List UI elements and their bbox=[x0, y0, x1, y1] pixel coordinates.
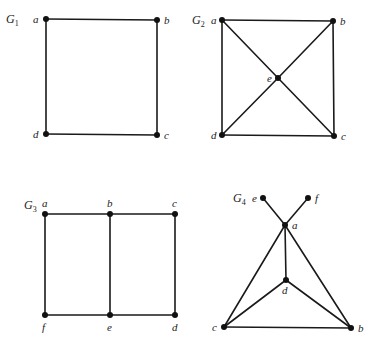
edge-b-e bbox=[278, 21, 333, 78]
vertex-c bbox=[154, 132, 160, 138]
vertex-label-d: d bbox=[172, 321, 178, 333]
vertex-c bbox=[331, 133, 337, 139]
vertex-label-c: c bbox=[172, 197, 177, 209]
edge-a-b bbox=[222, 20, 333, 21]
edge-a-b bbox=[46, 19, 157, 20]
vertex-label-a: a bbox=[292, 219, 298, 231]
vertex-label-a: a bbox=[211, 14, 217, 26]
vertex-e bbox=[107, 312, 113, 318]
vertex-label-d: d bbox=[33, 128, 39, 140]
graph-g3: abcdefG3 bbox=[24, 197, 178, 333]
edge-d-c bbox=[224, 280, 286, 327]
vertex-label-c: c bbox=[341, 130, 346, 142]
vertex-d bbox=[43, 131, 49, 137]
vertex-label-b: b bbox=[358, 322, 364, 334]
vertex-c bbox=[172, 211, 178, 217]
vertex-label-b: b bbox=[340, 15, 346, 27]
vertex-label-b: b bbox=[107, 197, 113, 209]
edge-a-c bbox=[224, 225, 285, 327]
vertex-f bbox=[305, 195, 311, 201]
edge-e-c bbox=[278, 78, 334, 136]
vertex-label-c: c bbox=[212, 321, 217, 333]
vertex-a bbox=[219, 17, 225, 23]
edge-b-c bbox=[333, 21, 334, 136]
edge-d-b bbox=[286, 280, 351, 328]
vertex-label-a: a bbox=[42, 197, 48, 209]
vertex-label-e: e bbox=[252, 192, 257, 204]
edge-e-d bbox=[222, 78, 278, 135]
vertex-label-e: e bbox=[107, 321, 112, 333]
vertex-a bbox=[282, 222, 288, 228]
vertex-f bbox=[42, 312, 48, 318]
vertex-b bbox=[330, 18, 336, 24]
graph-title-g2: G2 bbox=[192, 13, 205, 29]
graph-title-g4: G4 bbox=[233, 191, 246, 207]
vertex-label-f: f bbox=[315, 192, 320, 204]
vertex-label-f: f bbox=[42, 321, 47, 333]
vertex-label-a: a bbox=[33, 13, 39, 25]
edge-e-a bbox=[263, 198, 285, 225]
edge-c-d bbox=[46, 134, 157, 135]
vertex-d bbox=[219, 132, 225, 138]
graphs-root: abcdG1abcdeG2abcdefG3abcdefG4 bbox=[6, 12, 364, 334]
vertex-label-c: c bbox=[164, 129, 169, 141]
vertex-label-b: b bbox=[164, 14, 170, 26]
graph-g1: abcdG1 bbox=[6, 12, 170, 141]
graph-g2: abcdeG2 bbox=[192, 13, 346, 142]
vertex-b bbox=[348, 325, 354, 331]
vertex-label-e: e bbox=[267, 72, 272, 84]
graph-g4: abcdefG4 bbox=[212, 191, 364, 334]
vertex-d bbox=[172, 312, 178, 318]
graph-title-g1: G1 bbox=[6, 12, 19, 28]
graph-title-g3: G3 bbox=[24, 198, 37, 214]
vertex-a bbox=[43, 16, 49, 22]
edge-a-d bbox=[285, 225, 286, 280]
edge-a-b bbox=[285, 225, 351, 328]
graph-diagram-canvas: abcdG1abcdeG2abcdefG3abcdefG4 bbox=[0, 0, 368, 343]
vertex-b bbox=[107, 211, 113, 217]
vertex-e bbox=[275, 75, 281, 81]
edge-a-e bbox=[222, 20, 278, 78]
vertex-d bbox=[283, 277, 289, 283]
edge-c-b bbox=[224, 327, 351, 328]
vertex-e bbox=[260, 195, 266, 201]
edge-c-d bbox=[222, 135, 334, 136]
vertex-label-d: d bbox=[211, 129, 217, 141]
vertex-c bbox=[221, 324, 227, 330]
vertex-b bbox=[154, 17, 160, 23]
vertex-a bbox=[42, 211, 48, 217]
vertex-label-d: d bbox=[282, 284, 288, 296]
